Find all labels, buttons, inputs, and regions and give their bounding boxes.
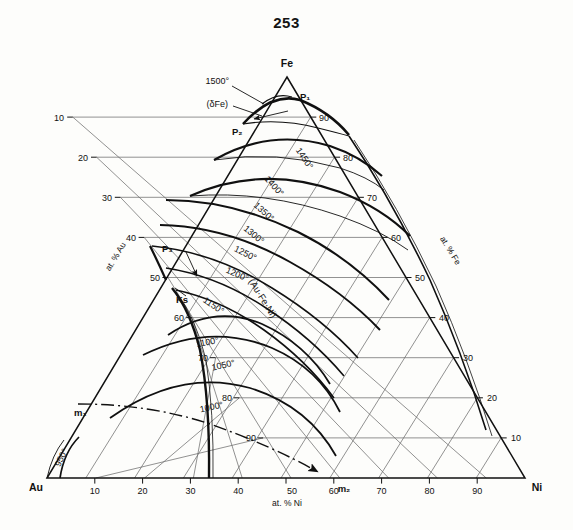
tick-bottom-8: 90 xyxy=(472,486,482,496)
tick-left-7: 80 xyxy=(222,393,232,403)
liquidus-right-2 xyxy=(354,140,492,436)
axis-title-left: at. % Au xyxy=(103,240,128,273)
tick-right-5: 40 xyxy=(439,313,449,323)
tick-right-7: 20 xyxy=(487,393,497,403)
axis-title-right: at. % Fe xyxy=(438,234,463,267)
isotherm-label-1450: 1450° xyxy=(294,146,316,172)
isotherm-label-1500: 1500° xyxy=(205,76,229,86)
tick-bottom-3: 40 xyxy=(233,486,243,496)
isotherm-label-1150: 1150° xyxy=(201,295,226,316)
isotherm-1450b xyxy=(214,156,384,190)
ternary-phase-diagram: Fe Au Ni at. % Au at. % Fe at. % Ni 10 2… xyxy=(0,0,573,530)
point-label-p3: P₃ xyxy=(162,243,173,254)
delta-fe-boundary xyxy=(243,98,349,135)
isotherm-label-950: 950° xyxy=(53,447,70,468)
phase-label-delta-fe: (δFe) xyxy=(206,99,228,109)
isotherm-1050 xyxy=(143,337,340,412)
tick-left-5: 60 xyxy=(174,313,184,323)
tick-bottom-0: 10 xyxy=(90,486,100,496)
isotherm-label-1300: 1300° xyxy=(242,223,267,246)
tick-marks xyxy=(67,117,507,484)
point-label-m1: m₁ xyxy=(74,407,86,418)
bottom-axis-tick-labels: 10 20 30 40 50 60 70 80 90 xyxy=(90,486,482,496)
tick-left-2: 30 xyxy=(102,193,112,203)
point-label-m2: m₂ xyxy=(338,483,351,494)
diagram-canvas: Fe Au Ni at. % Au at. % Fe at. % Ni 10 2… xyxy=(0,0,573,530)
point-label-p1: P₁ xyxy=(300,91,310,102)
tick-right-0: 90 xyxy=(319,113,329,123)
tick-left-8: 90 xyxy=(246,433,256,443)
isotherm-1350 xyxy=(166,200,389,300)
tick-right-2: 70 xyxy=(367,193,377,203)
tick-left-0: 10 xyxy=(54,113,64,123)
tick-bottom-4: 50 xyxy=(287,486,297,496)
point-label-p2: P₂ xyxy=(232,126,243,137)
tick-left-1: 20 xyxy=(78,153,88,163)
tick-right-8: 10 xyxy=(511,433,521,443)
leader-1500 xyxy=(232,86,264,104)
tick-bottom-2: 30 xyxy=(185,486,195,496)
tick-right-1: 80 xyxy=(343,153,353,163)
isotherm-label-1400: 1400° xyxy=(263,174,287,199)
tick-bottom-7: 80 xyxy=(424,486,434,496)
tick-right-3: 60 xyxy=(391,233,401,243)
tick-left-3: 40 xyxy=(126,233,136,243)
tick-left-6: 70 xyxy=(198,353,208,363)
isotherm-label-1050: 1050° xyxy=(211,357,237,372)
tick-right-6: 30 xyxy=(463,353,473,363)
annotation-leaders xyxy=(175,86,288,296)
tick-left-4: 50 xyxy=(150,273,160,283)
corner-label-au: Au xyxy=(29,481,43,493)
right-axis-tick-labels: 90 80 70 60 50 40 30 20 10 xyxy=(319,113,521,444)
tick-bottom-6: 70 xyxy=(377,486,387,496)
tick-bottom-1: 20 xyxy=(138,486,148,496)
corner-label-ni: Ni xyxy=(532,481,543,493)
corner-label-fe: Fe xyxy=(281,57,293,69)
isotherm-1400b xyxy=(190,195,408,250)
tick-right-4: 50 xyxy=(415,273,425,283)
axis-title-bottom: at. % Ni xyxy=(272,498,302,508)
point-label-ks: Ks xyxy=(176,294,188,305)
